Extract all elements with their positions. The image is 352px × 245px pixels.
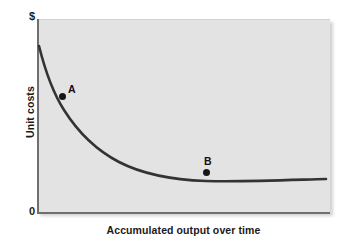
data-point-marker-a — [59, 93, 66, 100]
data-point-label-b: B — [204, 156, 212, 167]
data-point-label-a: A — [68, 84, 76, 95]
y-axis-top-tick-label: $ — [22, 10, 35, 23]
y-axis-origin-tick-label: 0 — [22, 205, 35, 218]
y-axis-title: Unit costs — [24, 57, 36, 167]
y-axis-line — [37, 19, 39, 213]
x-axis-title: Accumulated output over time — [37, 224, 330, 236]
experience-curve-chart: $ 0 Unit costs Accumulated output over t… — [0, 0, 352, 245]
x-axis-line — [37, 212, 330, 214]
data-point-marker-b — [203, 169, 210, 176]
plot-area — [37, 19, 330, 213]
